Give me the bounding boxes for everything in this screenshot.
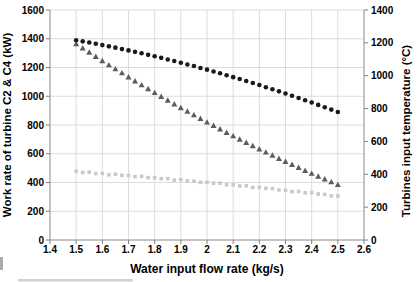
gray-triangles-point (289, 162, 295, 167)
black-circles-point (133, 50, 138, 55)
black-circles-point (185, 62, 190, 67)
light-gray-squares-point (153, 176, 157, 180)
black-circles-point (87, 40, 92, 45)
y-axis-right-title: Turbines input temperature (°C) (400, 45, 412, 218)
black-circles-point (159, 56, 164, 61)
light-gray-squares-point (310, 191, 314, 195)
black-circles-point (316, 103, 321, 108)
light-gray-squares-point (146, 176, 150, 180)
y-right-tick-label: 600 (371, 136, 388, 147)
y-left-tick-label: 1000 (22, 91, 45, 102)
chart-figure: 1.41.51.61.71.81.922.12.22.32.42.52.6020… (0, 0, 418, 282)
gray-triangles-point (302, 168, 308, 173)
y-right-tick-label: 200 (371, 202, 388, 213)
gray-triangles-point (86, 49, 92, 54)
black-circles-point (277, 89, 282, 94)
y-right-tick-label: 0 (371, 235, 377, 246)
black-circles-point (244, 79, 249, 84)
black-circles-point (296, 96, 301, 101)
black-circles-point (152, 54, 157, 59)
light-gray-squares-point (133, 175, 137, 179)
gray-triangles-point (152, 90, 158, 95)
x-tick-label: 1.4 (43, 244, 57, 255)
gray-triangles-point (328, 179, 334, 184)
light-gray-squares-point (231, 183, 235, 187)
gray-triangles-point (184, 108, 190, 113)
gray-triangles-point (309, 170, 315, 175)
black-circles-point (283, 91, 288, 96)
y-left-tick-label: 200 (27, 206, 44, 217)
light-gray-squares-point (316, 192, 320, 196)
light-gray-squares-point (186, 179, 190, 183)
light-gray-squares-point (290, 190, 294, 194)
y-right-tick-label: 400 (371, 169, 388, 180)
light-gray-squares-point (225, 183, 229, 187)
gray-triangles-point (132, 78, 138, 83)
y-axis-left-title: Work rate of turbine C2 & C4 (kW) (1, 33, 13, 218)
gray-triangles-point (126, 74, 132, 79)
black-circles-point (211, 69, 216, 74)
light-gray-squares-point (94, 172, 98, 176)
gray-triangles-point (171, 101, 177, 106)
gray-triangles-point (322, 176, 328, 181)
black-circles-point (172, 59, 177, 64)
scatter-chart: 1.41.51.61.71.81.922.12.22.32.42.52.6020… (0, 0, 418, 282)
light-gray-squares-point (81, 171, 85, 175)
gray-triangles-point (139, 82, 145, 87)
black-circles-point (329, 107, 334, 112)
x-tick-label: 1.8 (148, 244, 162, 255)
light-gray-squares-point (284, 188, 288, 192)
y-right-tick-label: 1400 (371, 5, 394, 16)
x-tick-label: 2.1 (226, 244, 240, 255)
black-circles-point (165, 57, 170, 62)
gray-triangles-point (99, 58, 105, 63)
black-circles-point (198, 66, 203, 71)
gray-triangles-point (165, 97, 171, 102)
x-tick-label: 1.9 (174, 244, 188, 255)
light-gray-squares-point (277, 188, 281, 192)
black-circles-point (290, 94, 295, 99)
black-circles-point (250, 81, 255, 86)
black-circles-point (192, 64, 197, 69)
gray-triangles-point (197, 116, 203, 121)
black-circles-point (179, 60, 184, 65)
gray-triangles-point (276, 155, 282, 160)
light-gray-squares-point (172, 178, 176, 182)
light-gray-squares-point (140, 174, 144, 178)
black-circles-point (107, 44, 112, 49)
gray-triangles-point (243, 140, 249, 145)
x-tick-label: 2.5 (331, 244, 345, 255)
light-gray-squares-point (114, 172, 118, 176)
gray-triangles-point (93, 54, 99, 59)
gray-triangles-point (230, 133, 236, 138)
y-left-tick-label: 1400 (22, 33, 45, 44)
light-gray-squares-point (218, 181, 222, 185)
y-left-tick-label: 1600 (22, 5, 45, 16)
light-gray-squares-point (258, 186, 262, 190)
black-circles-point (303, 98, 308, 103)
black-circles-point (146, 53, 151, 58)
gray-triangles-point (119, 70, 125, 75)
gray-triangles-point (191, 112, 197, 117)
x-tick-label: 1.6 (95, 244, 109, 255)
light-gray-squares-point (264, 187, 268, 191)
black-circles-point (126, 48, 131, 53)
x-tick-label: 1.5 (69, 244, 83, 255)
y-left-tick-label: 800 (27, 120, 44, 131)
gray-triangles-point (250, 143, 256, 148)
gray-triangles-point (145, 86, 151, 91)
light-gray-squares-point (107, 173, 111, 177)
gray-triangles-point (296, 165, 302, 170)
gray-triangles-point (224, 129, 230, 134)
gray-triangles-point (112, 66, 118, 71)
black-circles-point (336, 110, 341, 115)
x-tick-label: 2.6 (357, 244, 371, 255)
light-gray-squares-point (120, 174, 124, 178)
light-gray-squares-point (303, 191, 307, 195)
black-circles-point (270, 87, 275, 92)
light-gray-squares-point (329, 194, 333, 198)
light-gray-squares-point (192, 179, 196, 183)
gray-triangles-point (178, 105, 184, 110)
gray-triangles-point (269, 152, 275, 157)
page-edge-artifact (0, 257, 3, 270)
